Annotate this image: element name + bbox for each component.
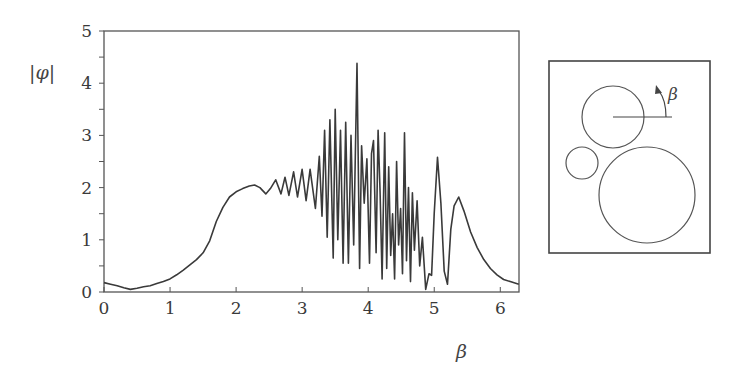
x-tick-label: 1 [165,298,176,318]
plot-frame [104,31,519,292]
y-tick-label: 1 [81,230,92,250]
y-axis-ticks: 012345 [81,21,104,302]
arrowhead-icon [655,85,662,94]
small-cylinder [566,147,598,179]
x-tick-label: 2 [231,298,242,318]
geometry-inset: β [549,61,710,253]
x-tick-label: 3 [297,298,308,318]
x-tick-label: 0 [99,298,110,318]
x-tick-label: 5 [429,298,440,318]
x-axis-label: β [455,340,467,362]
figure: 0123456 012345 |φ| β β [0,0,729,386]
y-tick-label: 0 [81,282,92,302]
large-cylinder [599,147,695,243]
x-tick-label: 4 [363,298,374,318]
angle-arc [659,91,666,117]
y-tick-label: 2 [81,178,92,198]
y-tick-label: 5 [81,21,92,41]
x-tick-label: 6 [495,298,506,318]
inset-frame [549,61,710,253]
inset-angle-label: β [667,84,678,104]
y-tick-label: 3 [81,125,92,145]
data-curve [104,63,519,289]
y-tick-label: 4 [81,73,92,93]
y-axis-label: |φ| [29,61,55,84]
